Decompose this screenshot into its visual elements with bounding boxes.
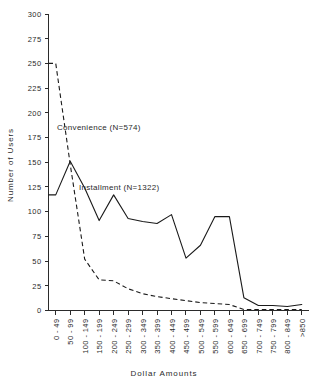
x-tick-label: 800 - 849 <box>283 319 292 354</box>
annotation-installment: Installment (N=1322) <box>79 183 160 192</box>
y-tick-label: 250 <box>28 59 42 68</box>
line-chart: 0255075100125150175200225250275300 0 - 4… <box>0 0 318 385</box>
y-tick-label: 100 <box>28 207 42 216</box>
x-tick-label: 600 - 649 <box>226 319 235 354</box>
y-tick-label: 150 <box>28 158 42 167</box>
x-tick-label: 250 - 299 <box>124 319 133 354</box>
y-tick-label: 125 <box>28 183 42 192</box>
x-tick-label: 450 - 499 <box>182 319 191 354</box>
chart-figure: 0255075100125150175200225250275300 0 - 4… <box>0 0 318 385</box>
x-axis-title: Dollar Amounts <box>131 369 198 378</box>
x-tick-label: 750 - 799 <box>269 319 278 354</box>
x-tick-label: 100 - 149 <box>81 319 90 354</box>
y-tick-label: 50 <box>32 257 41 266</box>
y-axis-title: Number of Users <box>6 128 15 202</box>
x-tick-label: 350 - 399 <box>153 319 162 354</box>
x-tick-label: 650 - 699 <box>240 319 249 354</box>
y-tick-label: 200 <box>28 109 42 118</box>
x-tick-label: 700 - 749 <box>255 319 264 354</box>
y-tick-label: 175 <box>28 133 42 142</box>
x-tick-label: 0 - 49 <box>52 319 61 341</box>
y-tick-label: 225 <box>28 84 42 93</box>
x-tick-label: 550 - 599 <box>211 319 220 354</box>
y-tick-label: 0 <box>37 306 42 315</box>
y-tick-label: 75 <box>32 232 41 241</box>
x-tick-label: 500 - 549 <box>197 319 206 354</box>
annotation-convenience: Convenience (N=574) <box>57 123 141 132</box>
x-tick-label: 150 - 199 <box>95 319 104 354</box>
x-tick-label: >850 <box>298 319 307 338</box>
y-tick-label: 300 <box>28 10 42 19</box>
x-tick-label: 300 - 349 <box>139 319 148 354</box>
x-tick-label: 50 - 99 <box>66 319 75 345</box>
x-tick-label: 400 - 449 <box>168 319 177 354</box>
y-tick-label: 275 <box>28 35 42 44</box>
x-tick-label: 200 - 249 <box>110 319 119 354</box>
y-tick-label: 25 <box>32 282 41 291</box>
